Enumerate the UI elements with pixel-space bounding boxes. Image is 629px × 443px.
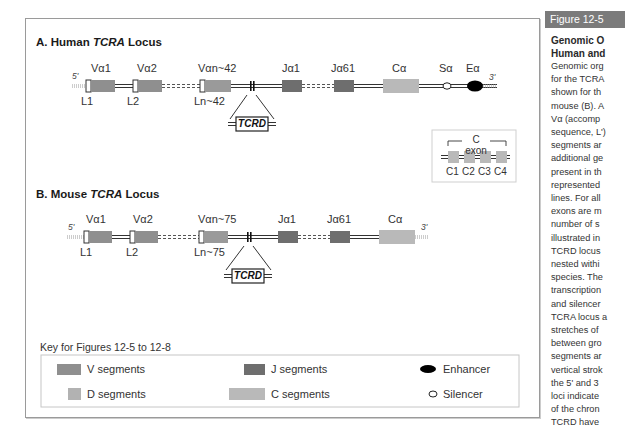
- human-5prime-label: 5': [72, 71, 78, 81]
- leader-ln-box: [200, 80, 205, 92]
- human-l1-label: L1: [81, 95, 93, 107]
- cexon-c1-label: C1: [446, 166, 459, 177]
- caption-line: mouse (B). A: [551, 100, 629, 113]
- caption-line: vertical strok: [551, 364, 629, 377]
- human-sa-label: Sα: [439, 62, 453, 74]
- mouse-3prime-label: 3': [421, 222, 427, 232]
- caption-title: Genomic O Human and: [551, 34, 629, 60]
- caption-line: loci indicate: [551, 390, 629, 403]
- caption-body: Genomic orgfor the TCRAshown for thmouse…: [551, 60, 629, 430]
- human-ln-label: Ln~42: [194, 95, 225, 107]
- v-segment-van: [205, 80, 231, 92]
- caption-line: TCRD have: [551, 416, 629, 429]
- caption-line: sequence, L'): [551, 126, 629, 139]
- silencer-sa: [443, 83, 451, 89]
- key-j-segments: J segments: [271, 363, 327, 375]
- caption-line: additional ge: [551, 152, 629, 165]
- mouse-ln-label: Ln~75: [194, 246, 225, 258]
- human-ea-label: Eα: [466, 62, 480, 74]
- mouse-l2-label: L2: [126, 246, 138, 258]
- cexon-c2-label: C2: [462, 166, 475, 177]
- human-van-label: Vαn~42: [198, 62, 236, 74]
- caption-line: present in th: [551, 166, 629, 179]
- leader-l1-box: [86, 80, 91, 92]
- caption-line: exons are m: [551, 205, 629, 218]
- human-tcrd-label: TCRD: [236, 117, 268, 131]
- caption-line: transcription: [551, 284, 629, 297]
- mouse-ja61-label: Jα61: [327, 213, 351, 225]
- key-v-segments: V segments: [87, 363, 145, 375]
- caption-line: segments ar: [551, 350, 629, 363]
- cexon-c4-label: C4: [494, 166, 507, 177]
- mouse-van-label: Vαn~75: [198, 213, 236, 225]
- human-l2-label: L2: [127, 95, 139, 107]
- j-segment-ja1: [282, 80, 302, 92]
- enhancer-ea: [467, 81, 483, 92]
- caption-line: Genomic org: [551, 60, 629, 73]
- v-segment-va1: [91, 80, 115, 92]
- human-va2-label: Vα2: [137, 62, 157, 74]
- mouse-tcrd-label: TCRD: [232, 269, 264, 283]
- human-3prime-label: 3': [489, 72, 495, 82]
- caption-line: represented: [551, 179, 629, 192]
- caption-line: illustrated in: [551, 232, 629, 245]
- mouse-locus-title: B. Mouse TCRA Locus: [36, 188, 159, 200]
- key-d-segments: D segments: [87, 388, 146, 400]
- cexon-c3-label: C3: [478, 166, 491, 177]
- locus-diagram-graphics: [0, 0, 545, 443]
- key-title: Key for Figures 12-5 to 12-8: [40, 341, 171, 353]
- key-enhancer: Enhancer: [443, 363, 490, 375]
- caption-line: lines. For all: [551, 192, 629, 205]
- mouse-ja1-label: Jα1: [278, 213, 296, 225]
- caption-line: between gro: [551, 337, 629, 350]
- figure-number-tag: Figure 12-5: [545, 11, 625, 28]
- mouse-va2-label: Vα2: [133, 213, 153, 225]
- mouse-l1-label: L1: [80, 246, 92, 258]
- key-silencer: Silencer: [443, 388, 483, 400]
- caption-line: segments ar: [551, 139, 629, 152]
- caption-line: TCRD locus: [551, 245, 629, 258]
- human-va1-label: Vα1: [91, 62, 111, 74]
- caption-line: species. The: [551, 271, 629, 284]
- human-ja61-label: Jα61: [331, 62, 355, 74]
- caption-line: TCRA locus a: [551, 311, 629, 324]
- human-locus-title: A. Human TCRA Locus: [36, 36, 162, 48]
- caption-line: the 5' and 3: [551, 377, 629, 390]
- mouse-va1-label: Vα1: [86, 213, 106, 225]
- caption-line: nested withi: [551, 258, 629, 271]
- c-segment-ca: [383, 79, 419, 93]
- j-segment-ja61: [334, 80, 354, 92]
- caption-line: of the chron: [551, 403, 629, 416]
- mouse-ca-label: Cα: [388, 213, 402, 225]
- caption-line: stretches of: [551, 324, 629, 337]
- caption-line: and silencer: [551, 298, 629, 311]
- caption-title-line: Genomic O: [551, 34, 629, 47]
- key-c-segments: C segments: [271, 388, 330, 400]
- mouse-5prime-label: 5': [68, 222, 74, 232]
- caption-line: Vα (accomp: [551, 113, 629, 126]
- caption-title-line: Human and: [551, 47, 629, 60]
- cexon-title: C exon: [462, 134, 490, 156]
- v-segment-va2: [138, 80, 162, 92]
- human-ca-label: Cα: [392, 62, 406, 74]
- caption-line: number of s: [551, 218, 629, 231]
- caption-line: for the TCRA: [551, 73, 629, 86]
- leader-l2-box: [133, 80, 138, 92]
- caption-line: shown for th: [551, 86, 629, 99]
- human-ja1-label: Jα1: [282, 62, 300, 74]
